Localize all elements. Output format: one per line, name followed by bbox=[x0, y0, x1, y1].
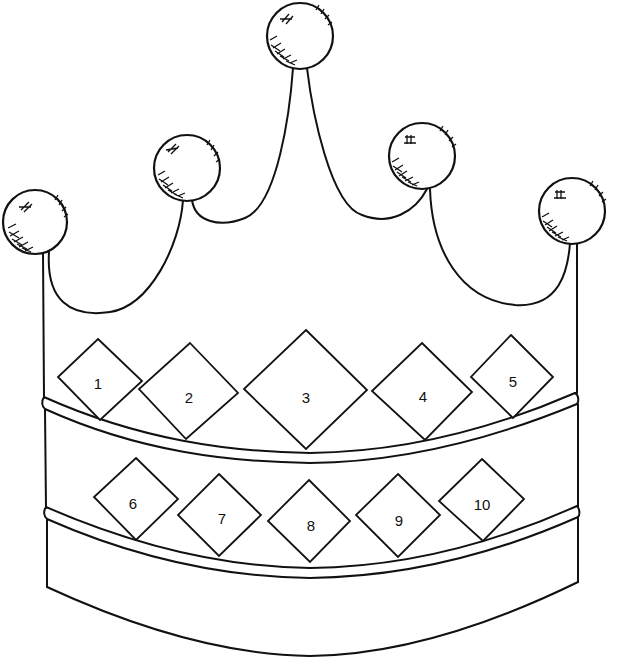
jewel-number: 2 bbox=[185, 389, 193, 406]
bottom-rim bbox=[47, 582, 578, 656]
jewel-5[interactable]: 5 bbox=[471, 335, 553, 418]
ball-icon bbox=[154, 135, 220, 201]
jewel-2[interactable]: 2 bbox=[139, 343, 238, 439]
left-side-line bbox=[43, 252, 47, 587]
ball-icon bbox=[539, 178, 606, 244]
crown-arches bbox=[49, 68, 570, 313]
jewel-8[interactable]: 8 bbox=[268, 480, 350, 562]
jewel-number: 5 bbox=[509, 373, 517, 390]
crown-balls bbox=[3, 3, 606, 254]
right-side-line bbox=[577, 243, 578, 582]
jewel-number: 8 bbox=[307, 517, 315, 534]
jewel-number: 9 bbox=[395, 512, 403, 529]
jewel-number: 7 bbox=[218, 510, 226, 527]
jewel-4[interactable]: 4 bbox=[372, 343, 472, 440]
jewel-number: 10 bbox=[474, 496, 491, 513]
jewel-10[interactable]: 10 bbox=[439, 459, 524, 541]
jewel-7[interactable]: 7 bbox=[178, 474, 261, 556]
crown-jewels: 1 2 3 4 5 6 7 8 bbox=[58, 330, 553, 562]
jewel-number: 1 bbox=[94, 375, 102, 392]
jewel-3[interactable]: 3 bbox=[244, 330, 367, 449]
jewel-number: 4 bbox=[419, 388, 427, 405]
ball-icon bbox=[267, 3, 333, 69]
jewel-9[interactable]: 9 bbox=[356, 474, 440, 557]
crown-drawing: 1 2 3 4 5 6 7 8 bbox=[0, 0, 618, 668]
arch-1 bbox=[49, 200, 183, 313]
ball-icon bbox=[389, 123, 456, 189]
jewel-number: 3 bbox=[302, 389, 310, 406]
jewel-6[interactable]: 6 bbox=[94, 458, 178, 540]
ball-icon bbox=[3, 190, 68, 254]
jewel-number: 6 bbox=[129, 495, 137, 512]
